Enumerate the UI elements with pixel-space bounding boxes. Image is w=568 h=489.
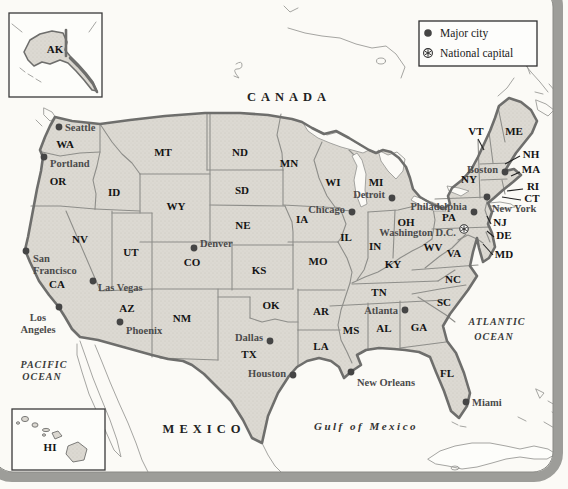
state-label-fl: FL (440, 367, 454, 379)
city-dot-boston (502, 169, 509, 176)
state-label-tn: TN (371, 286, 386, 298)
city-label-houston: Houston (248, 368, 286, 379)
city-label-chicago: Chicago (308, 204, 345, 215)
state-label-de: DE (496, 229, 511, 241)
state-label-mo: MO (309, 255, 328, 267)
city-dot-san-francisco (23, 248, 30, 255)
state-label-vt: VT (468, 125, 484, 137)
city-label-philadelphia: Philadelphia (410, 201, 467, 212)
state-label-ar: AR (313, 305, 330, 317)
state-label-al: AL (376, 322, 391, 334)
city-label-los-angeles: Angeles (21, 324, 56, 335)
city-label-portland: Portland (50, 158, 90, 169)
city-dot-denver (191, 245, 198, 252)
city-label-san-francisco: San (33, 253, 50, 264)
city-dot-atlanta (402, 307, 409, 314)
legend-major-city-label: Major city (440, 27, 488, 40)
city-label-seattle: Seattle (65, 122, 96, 133)
national-capital-star-icon (424, 49, 433, 58)
mexico-label: MEXICO (163, 422, 246, 436)
state-label-la: LA (313, 340, 328, 352)
hawaii-label: HI (44, 441, 57, 453)
state-label-ms: MS (343, 324, 360, 336)
city-label-las-vegas: Las Vegas (98, 282, 143, 293)
state-label-tx: TX (241, 348, 256, 360)
capital-star-icon (460, 225, 468, 233)
state-label-nj: NJ (493, 216, 507, 228)
city-dot-houston (290, 372, 297, 379)
state-label-co: CO (184, 256, 201, 268)
city-label-new-orleans: New Orleans (357, 377, 415, 388)
city-label-atlanta: Atlanta (364, 305, 399, 316)
city-dot-los-angeles (56, 304, 63, 311)
state-label-ok: OK (262, 299, 280, 311)
state-label-me: ME (505, 125, 523, 137)
map-screenshot: Major city National capital CANADA MEXIC… (0, 0, 568, 489)
alaska-inset (9, 13, 102, 97)
national-capital: Washington D.C. (379, 225, 468, 238)
city-label-detroit: Detroit (353, 189, 385, 200)
state-label-az: AZ (119, 302, 134, 314)
state-label-ia: IA (296, 213, 308, 225)
city-label-phoenix: Phoenix (126, 325, 163, 336)
state-label-nm: NM (173, 312, 192, 324)
canada-label: CANADA (247, 90, 331, 104)
gulf-of-mexico-label: Gulf of Mexico (314, 420, 418, 432)
major-city-dot-icon (424, 29, 432, 37)
city-label-los-angeles: Los (30, 312, 46, 323)
state-label-nc: NC (445, 273, 461, 285)
atlantic-ocean-label-line1: ATLANTIC (468, 316, 526, 327)
state-label-ri: RI (527, 180, 539, 192)
state-label-sd: SD (235, 184, 249, 196)
city-dot-seattle (56, 124, 63, 131)
city-dot-detroit (389, 195, 396, 202)
city-label-miami: Miami (472, 397, 502, 408)
state-label-nv: NV (72, 233, 88, 245)
state-label-mi: MI (369, 176, 384, 188)
state-label-ga: GA (411, 321, 428, 333)
state-label-mn: MN (280, 157, 298, 169)
pacific-ocean-label-line1: PACIFIC (21, 359, 68, 370)
city-dot-phoenix (117, 319, 124, 326)
city-dot-miami (463, 399, 470, 406)
city-label-denver: Denver (200, 238, 233, 249)
city-label-boston: Boston (467, 164, 498, 175)
city-dot-new-york (484, 194, 491, 201)
city-label-new-york: New York (492, 203, 536, 214)
state-label-sc: SC (437, 296, 451, 308)
state-label-il: IL (340, 231, 352, 243)
state-label-wi: WI (325, 176, 340, 188)
state-label-id: ID (108, 186, 120, 198)
state-label-ut: UT (123, 246, 139, 258)
state-label-pa: PA (442, 211, 456, 223)
state-label-ky: KY (385, 258, 402, 270)
state-label-mt: MT (154, 146, 172, 158)
state-label-va: VA (447, 247, 462, 259)
city-label-dallas: Dallas (235, 332, 263, 343)
city-dot-las-vegas (90, 278, 97, 285)
state-label-ca: CA (49, 278, 65, 290)
state-label-wy: WY (167, 200, 186, 212)
us-reference-map: Major city National capital CANADA MEXIC… (0, 0, 568, 489)
alaska-label: AK (47, 43, 64, 55)
state-label-in: IN (369, 240, 381, 252)
city-dot-dallas (267, 338, 274, 345)
city-dot-new-orleans (348, 369, 355, 376)
city-dot-portland (41, 154, 48, 161)
hawaii-inset (12, 409, 105, 470)
atlantic-ocean-label-line2: OCEAN (474, 331, 513, 342)
state-label-nh: NH (523, 148, 540, 160)
state-label-md: MD (495, 248, 513, 260)
state-label-nd: ND (232, 146, 248, 158)
state-label-or: OR (50, 175, 68, 187)
state-label-ne: NE (235, 219, 250, 231)
state-label-wv: WV (424, 241, 443, 253)
state-label-ks: KS (252, 264, 267, 276)
state-label-ma: MA (522, 163, 540, 175)
city-label-san-francisco: Francisco (33, 265, 77, 276)
legend-national-capital-label: National capital (440, 47, 513, 60)
city-dot-chicago (349, 209, 356, 216)
legend: Major city National capital (419, 21, 537, 66)
capital-label: Washington D.C. (379, 227, 456, 238)
pacific-ocean-label-line2: OCEAN (22, 371, 61, 382)
